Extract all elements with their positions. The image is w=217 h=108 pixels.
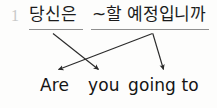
source-sentence-row: 당신은 ~할 예정입니까	[0, 2, 217, 32]
source-underline-subject	[29, 29, 83, 30]
target-sentence-row: Are you going to	[0, 74, 217, 100]
source-underline-predicate	[91, 29, 209, 30]
source-chunk-subject: 당신은	[29, 2, 76, 26]
target-chunk-you: you	[88, 74, 120, 96]
arrow-predicate-to-are	[59, 34, 153, 70]
worksheet-exercise-card: 1 당신은 ~할 예정입니까 Are you going to	[0, 0, 217, 108]
arrow-predicate-to-going-to	[153, 34, 164, 70]
arrow-subject-to-you	[53, 34, 99, 70]
source-chunk-predicate: ~할 예정입니까	[92, 2, 206, 26]
target-chunk-going-to: going to	[128, 74, 199, 96]
target-chunk-are: Are	[40, 74, 69, 96]
